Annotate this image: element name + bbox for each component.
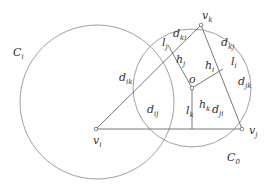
label-C-i: Ci <box>13 46 24 61</box>
label-l-j: lj <box>162 36 169 51</box>
label-d-ji: dji <box>212 103 223 118</box>
label-h-i: hi <box>205 59 214 74</box>
circle-c-i <box>20 25 174 179</box>
label-d-kj: dkj <box>221 36 235 51</box>
vertex-o <box>190 86 194 90</box>
label-h-k: hk <box>199 98 210 113</box>
label-l-i: li <box>231 55 237 70</box>
label-v-j: vj <box>249 124 258 139</box>
label-d-ik: dik <box>119 71 133 86</box>
vertex-v-k <box>199 23 203 27</box>
label-h-j: hj <box>176 53 186 68</box>
label-l-k: lk <box>186 104 194 119</box>
circles-group <box>20 25 251 179</box>
label-C-0: C0 <box>227 151 240 166</box>
label-o: o <box>189 73 196 86</box>
vertex-v-j <box>240 127 244 131</box>
diagram-canvas: CiC0vkvjviodikdkiljhjhidkjlidjkhkdijlkdj… <box>0 0 270 188</box>
label-v-k: vk <box>202 9 212 24</box>
vertex-v-i <box>94 127 98 131</box>
label-d-jk: djk <box>238 75 251 90</box>
label-d-ij: dij <box>147 103 159 118</box>
label-v-i: vi <box>93 134 101 149</box>
labels-group: CiC0vkvjviodikdkiljhjhidkjlidjkhkdijlkdj… <box>13 9 258 166</box>
